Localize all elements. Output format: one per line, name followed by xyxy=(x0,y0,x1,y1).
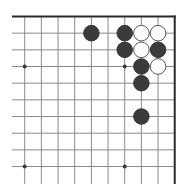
black-stone[interactable] xyxy=(150,42,166,58)
go-board[interactable] xyxy=(0,0,186,195)
white-stone[interactable] xyxy=(150,59,166,75)
black-stone[interactable] xyxy=(117,42,133,58)
black-stone[interactable] xyxy=(134,59,150,75)
black-stone[interactable] xyxy=(134,75,150,91)
black-stone[interactable] xyxy=(84,25,100,41)
star-point xyxy=(23,65,27,69)
black-stone[interactable] xyxy=(134,109,150,125)
black-stone[interactable] xyxy=(117,25,133,41)
star-point xyxy=(123,165,127,169)
white-stone[interactable] xyxy=(150,25,166,41)
white-stone[interactable] xyxy=(134,42,150,58)
star-point xyxy=(23,165,27,169)
white-stone[interactable] xyxy=(134,25,150,41)
star-point xyxy=(123,65,127,69)
